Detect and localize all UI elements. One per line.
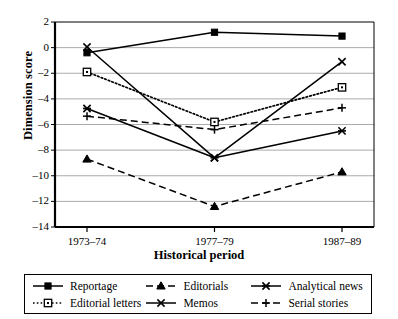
legend-label: Editorial letters	[70, 297, 141, 309]
legend-item-editorials: Editorials	[144, 279, 249, 293]
data-point-plus	[262, 299, 270, 307]
data-point-filled-square	[45, 282, 51, 288]
chart-legend: ReportageEditorialsAnalytical newsEditor…	[24, 274, 372, 314]
legend-label: Memos	[183, 297, 218, 309]
series-memos	[83, 43, 345, 161]
data-point-filled-square	[211, 29, 217, 35]
data-point-filled-triangle	[83, 155, 91, 162]
data-point-open-square	[211, 118, 218, 125]
data-point-x-cross	[338, 58, 345, 65]
legend-label: Editorials	[183, 280, 228, 292]
data-point-plus	[83, 112, 91, 120]
data-point-open-square	[44, 299, 51, 306]
data-point-open-square	[83, 68, 90, 75]
x-axis-title: Historical period	[0, 248, 398, 263]
legend-symbol-star-x-icon	[249, 279, 283, 293]
legend-label: Analytical news	[288, 280, 362, 292]
data-point-filled-square	[339, 33, 345, 39]
data-point-open-square	[338, 84, 345, 91]
data-point-filled-triangle	[338, 168, 346, 175]
legend-symbol-x-cross-icon	[144, 296, 178, 310]
legend-label: Reportage	[70, 280, 117, 292]
data-point-star-x	[338, 127, 346, 134]
chart-figure: Dimension score 20–2–4–6–8–10–12–14 1973…	[0, 0, 398, 319]
data-point-plus	[211, 126, 219, 134]
legend-symbol-plus-icon	[249, 296, 283, 310]
legend-label: Serial stories	[288, 297, 348, 309]
series-editorial-letters	[83, 68, 345, 125]
legend-item-reportage: Reportage	[31, 279, 144, 293]
legend-item-editorial-letters: Editorial letters	[31, 296, 144, 310]
legend-item-memos: Memos	[144, 296, 249, 310]
legend-symbol-filled-triangle-icon	[144, 279, 178, 293]
series-reportage	[84, 29, 345, 56]
series-layer	[83, 29, 346, 209]
legend-item-serial-stories: Serial stories	[249, 296, 367, 310]
data-point-filled-square	[84, 50, 90, 56]
legend-symbol-filled-square-icon	[31, 279, 65, 293]
data-point-star-x	[211, 154, 219, 161]
data-point-star-x	[83, 105, 91, 112]
data-point-plus	[338, 104, 346, 112]
legend-symbol-open-square-icon	[31, 296, 65, 310]
data-point-star-x	[262, 282, 270, 289]
legend-item-analytical-news: Analytical news	[249, 279, 367, 293]
plot-area	[0, 0, 398, 319]
